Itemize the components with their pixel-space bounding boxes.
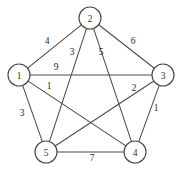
edges-layer xyxy=(23,25,160,152)
graph-node-3[interactable]: 3 xyxy=(152,64,174,86)
nodes-layer: 12345 xyxy=(8,7,174,163)
edge-weight-1-2: 4 xyxy=(45,36,50,46)
graph-edge-2-5 xyxy=(49,28,86,141)
edge-weight-5-4: 7 xyxy=(90,153,95,163)
edge-weight-3-5: 2 xyxy=(132,83,137,93)
graph-node-4[interactable]: 4 xyxy=(124,141,146,163)
edge-weight-2-5: 3 xyxy=(70,47,75,57)
edge-weight-1-4: 1 xyxy=(47,81,52,91)
graph-figure: 12345 4693735121 xyxy=(0,0,181,173)
edge-weight-2-3: 6 xyxy=(131,36,136,46)
node-label-4: 4 xyxy=(133,148,138,158)
edge-weight-1-5: 3 xyxy=(20,108,25,118)
node-label-2: 2 xyxy=(88,14,93,24)
graph-edge-2-3 xyxy=(99,25,155,68)
node-label-3: 3 xyxy=(161,71,166,81)
graph-canvas: 12345 4693735121 xyxy=(0,0,181,173)
graph-edge-1-4 xyxy=(28,81,126,146)
node-label-1: 1 xyxy=(17,71,22,81)
graph-node-5[interactable]: 5 xyxy=(35,141,57,163)
node-label-5: 5 xyxy=(44,148,49,158)
graph-edge-3-4 xyxy=(139,85,159,141)
graph-node-1[interactable]: 1 xyxy=(8,64,30,86)
edge-weight-3-4: 1 xyxy=(154,103,159,113)
edge-weight-2-4: 5 xyxy=(99,47,104,57)
graph-edge-3-5 xyxy=(55,81,154,146)
graph-node-2[interactable]: 2 xyxy=(79,7,101,29)
graph-edge-1-5 xyxy=(23,85,43,141)
edge-weight-1-3: 9 xyxy=(54,62,59,72)
